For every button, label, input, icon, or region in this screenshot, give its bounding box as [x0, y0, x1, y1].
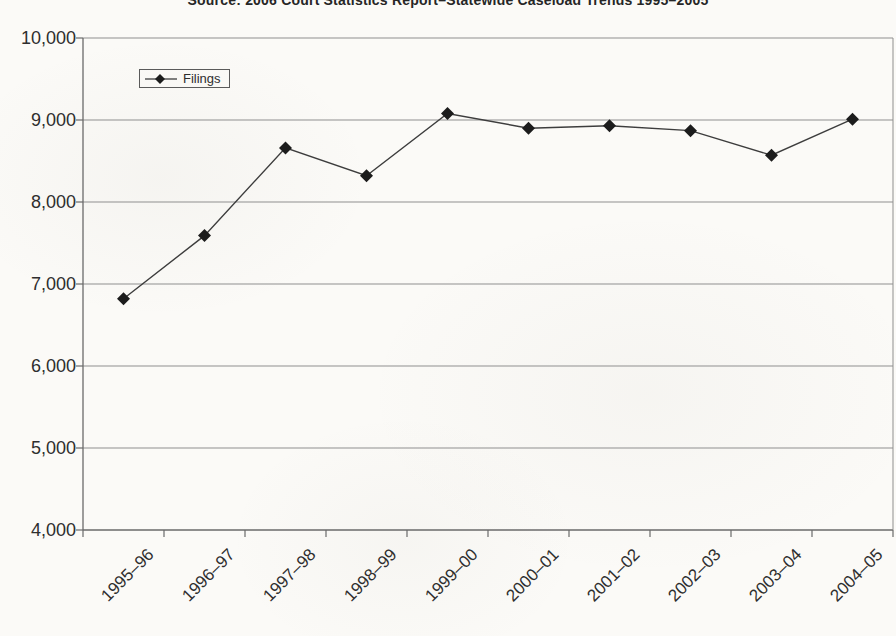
data-point-diamond: [441, 107, 454, 120]
y-tick-label: 8,000: [0, 191, 76, 213]
data-point-diamond: [522, 122, 535, 135]
data-point-diamond: [846, 113, 859, 126]
filings-series-line: [124, 113, 853, 298]
data-point-diamond: [603, 119, 616, 132]
data-point-diamond: [360, 169, 373, 182]
data-point-diamond: [117, 292, 130, 305]
y-tick-label: 9,000: [0, 109, 76, 131]
y-tick-label: 7,000: [0, 273, 76, 295]
scanned-chart-page: Source: 2006 Court Statistics Report–Sta…: [0, 0, 896, 636]
filings-series-marker-icon: [145, 73, 177, 85]
y-tick-label: 5,000: [0, 437, 76, 459]
legend-diamond-icon: [155, 74, 165, 84]
y-tick-label: 6,000: [0, 355, 76, 377]
data-point-diamond: [684, 124, 697, 137]
legend: Filings: [139, 69, 230, 88]
y-tick-label: 4,000: [0, 519, 76, 541]
legend-label: Filings: [183, 71, 221, 86]
filings-line-chart: [0, 0, 896, 636]
data-point-diamond: [765, 149, 778, 162]
y-tick-label: 10,000: [0, 27, 76, 49]
